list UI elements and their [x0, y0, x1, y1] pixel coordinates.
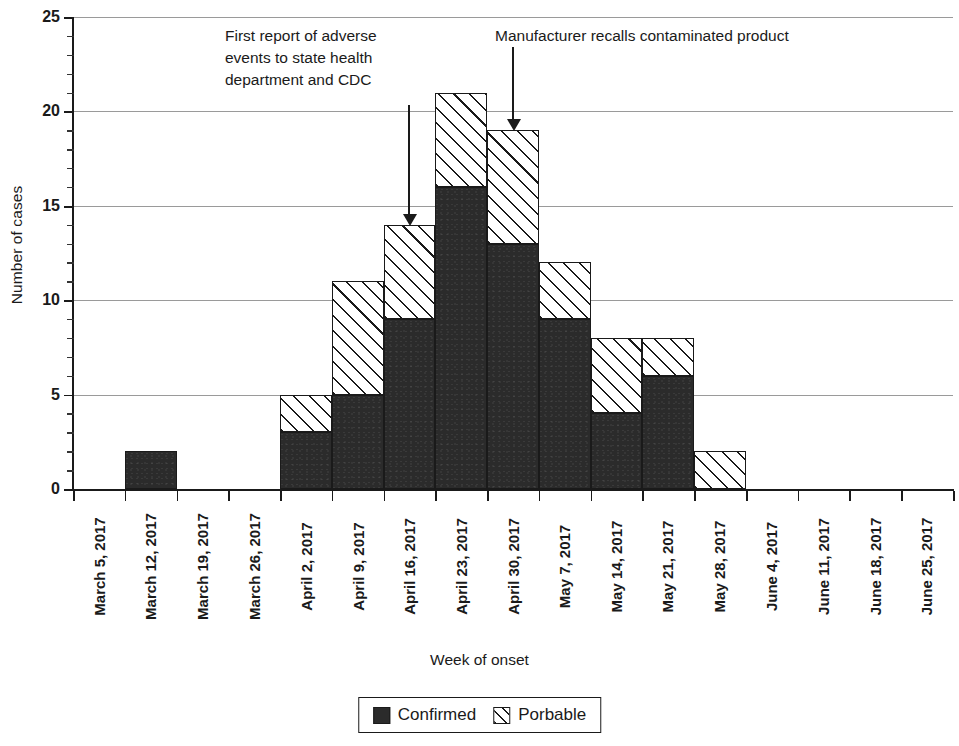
bar-segment-probable[interactable] [539, 262, 591, 319]
bar-segment-confirmed[interactable] [332, 395, 384, 489]
bar-group[interactable] [280, 395, 332, 489]
bar-segment-probable[interactable] [487, 130, 539, 243]
x-tick-label-text: April 23, 2017 [453, 518, 470, 615]
x-tick-label: April 30, 2017 [487, 500, 539, 640]
x-tick-label-text: April 16, 2017 [401, 518, 418, 615]
bar-segment-probable[interactable] [642, 338, 694, 376]
legend-label: Porbable [518, 705, 586, 725]
bar-segment-confirmed[interactable] [384, 319, 436, 489]
y-axis-title-text: Number of cases [8, 186, 26, 305]
y-tick-label-0: 0 [51, 480, 60, 498]
annotation-text-product-recall: Manufacturer recalls contaminated produc… [495, 25, 789, 47]
annotation-text-first-report: First report of adverse events to state … [225, 25, 377, 91]
x-tick-label: April 2, 2017 [280, 500, 332, 640]
x-tick-label-text: June 4, 2017 [763, 522, 780, 611]
x-tick-label: March 19, 2017 [177, 500, 229, 640]
bar-segment-confirmed[interactable] [435, 187, 487, 489]
x-tick-label: April 23, 2017 [435, 500, 487, 640]
x-tick-label: March 26, 2017 [228, 500, 280, 640]
bar-segment-confirmed[interactable] [642, 376, 694, 489]
x-tick-label-text: June 18, 2017 [867, 518, 884, 616]
bar-group[interactable] [591, 338, 643, 489]
x-tick-label: May 14, 2017 [591, 500, 643, 640]
x-tick-label-text: March 19, 2017 [194, 513, 211, 620]
bar-group[interactable] [539, 262, 591, 489]
y-axis-title: Number of cases [2, 0, 32, 490]
x-tick-label: June 18, 2017 [849, 500, 901, 640]
annotation-arrow-line-first-report [408, 105, 410, 215]
y-tick-label-20: 20 [42, 102, 60, 120]
bar-group[interactable] [435, 93, 487, 489]
x-tick-label-text: June 25, 2017 [919, 518, 936, 616]
bar-segment-probable[interactable] [384, 225, 436, 319]
bar-group[interactable] [642, 338, 694, 489]
annotation-arrow-line-product-recall [512, 47, 514, 120]
bar-segment-confirmed[interactable] [487, 244, 539, 489]
x-tick-label: March 12, 2017 [125, 500, 177, 640]
x-tick-label-text: June 11, 2017 [815, 518, 832, 615]
annotation-arrow-head-first-report [403, 214, 417, 226]
x-tick-label-text: May 28, 2017 [712, 521, 729, 613]
bar-segment-confirmed[interactable] [591, 413, 643, 489]
bar-segment-confirmed[interactable] [280, 432, 332, 489]
x-tick-label-text: April 9, 2017 [349, 522, 366, 610]
x-tick-label: June 4, 2017 [746, 500, 798, 640]
x-tick-label: June 25, 2017 [901, 500, 953, 640]
x-tick-label-text: May 14, 2017 [608, 521, 625, 613]
x-tick-label: April 16, 2017 [384, 500, 436, 640]
x-axis-tick-labels: March 5, 2017March 12, 2017March 19, 201… [73, 500, 953, 640]
bar-segment-confirmed[interactable] [125, 451, 177, 489]
legend-swatch-confirmed [373, 707, 390, 724]
chart-legend: ConfirmedPorbable [358, 697, 601, 733]
x-tick-label: March 5, 2017 [73, 500, 125, 640]
bar-group[interactable] [332, 281, 384, 489]
bar-segment-confirmed[interactable] [539, 319, 591, 489]
legend-item-confirmed[interactable]: Confirmed [373, 705, 476, 725]
bar-group[interactable] [487, 130, 539, 489]
bar-segment-probable[interactable] [280, 395, 332, 433]
bar-group[interactable] [125, 451, 177, 489]
x-axis-title: Week of onset [0, 651, 959, 669]
plot-area: 0510152025 First report of adverse event… [73, 17, 953, 489]
x-axis-title-text: Week of onset [430, 651, 529, 668]
legend-swatch-probable [493, 707, 510, 724]
bar-segment-probable[interactable] [694, 451, 746, 489]
x-tick-label: April 9, 2017 [332, 500, 384, 640]
bar-segment-probable[interactable] [435, 93, 487, 187]
y-tick-label-5: 5 [51, 386, 60, 404]
x-tick-label-text: April 30, 2017 [504, 518, 521, 615]
bar-segment-probable[interactable] [332, 281, 384, 394]
x-tick-label-text: March 5, 2017 [90, 517, 107, 615]
x-tick-label: May 21, 2017 [642, 500, 694, 640]
y-tick-label-15: 15 [42, 197, 60, 215]
y-tick-label-10: 10 [42, 291, 60, 309]
x-tick-label: May 28, 2017 [694, 500, 746, 640]
epidemic-curve-chart: Number of cases 0510152025 First report … [0, 0, 959, 746]
bar-group[interactable] [384, 225, 436, 489]
bar-segment-probable[interactable] [591, 338, 643, 414]
x-tick-label-text: April 2, 2017 [297, 522, 314, 610]
legend-item-probable[interactable]: Porbable [493, 705, 586, 725]
x-tick-label: June 11, 2017 [798, 500, 850, 640]
bar-group[interactable] [694, 451, 746, 489]
legend-label: Confirmed [398, 705, 476, 725]
x-tick-label-text: March 12, 2017 [142, 513, 159, 620]
x-tick-label-text: May 7, 2017 [556, 525, 573, 608]
annotation-arrow-head-product-recall [507, 119, 521, 131]
x-tick-label-text: May 21, 2017 [660, 521, 677, 613]
x-tick-label: May 7, 2017 [539, 500, 591, 640]
x-tick-label-text: March 26, 2017 [246, 513, 263, 620]
x-tick-end [953, 491, 955, 501]
y-tick-label-25: 25 [42, 8, 60, 26]
